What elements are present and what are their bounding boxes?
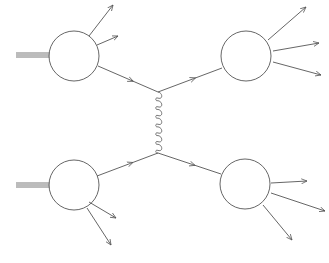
incoming-beams: [16, 53, 50, 187]
interaction-blobs: [49, 31, 271, 210]
internal-quark-lines: [97, 66, 222, 176]
diagram-canvas: [0, 0, 329, 263]
blob-bottom-left: [49, 160, 99, 210]
outgoing-arrow-bottom-right: [271, 181, 307, 183]
outgoing-arrow-top-right: [273, 62, 321, 75]
quark-line: [97, 153, 158, 176]
blob-bottom-right: [220, 159, 270, 209]
outgoing-particle-arrows: [87, 5, 325, 245]
outgoing-arrow-top-right: [273, 43, 319, 51]
outgoing-arrow-bottom-right: [271, 193, 325, 211]
feynman-diagram: [0, 0, 329, 263]
blob-top-right: [221, 31, 271, 81]
quark-line: [158, 68, 222, 92]
outgoing-arrow-top-left: [89, 5, 113, 36]
outgoing-arrow-top-right: [268, 7, 306, 40]
quark-line: [98, 66, 158, 92]
gluon-line: [156, 92, 162, 153]
quark-line: [158, 153, 221, 174]
gluon-coil: [156, 92, 162, 153]
outgoing-arrow-bottom-left: [87, 208, 111, 245]
outgoing-arrow-top-left: [97, 36, 118, 45]
outgoing-arrow-bottom-right: [263, 205, 292, 240]
blob-top-left: [49, 31, 99, 81]
outgoing-arrow-bottom-left: [89, 202, 116, 218]
